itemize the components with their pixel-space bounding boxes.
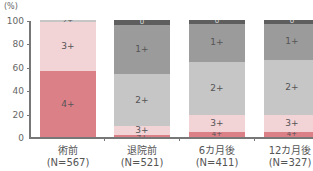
y-axis-unit: (%)	[4, 2, 18, 11]
bar-segment-1+: 1+	[114, 25, 170, 74]
bar-segment-0: 0	[264, 20, 313, 24]
segment-label: 2+	[63, 20, 73, 22]
x-axis-line	[29, 137, 313, 139]
segment-label: 2+	[285, 83, 298, 92]
category-label-discharge: 退院前 (N=521)	[102, 145, 182, 169]
y-axis-line	[29, 21, 31, 139]
segment-label: 3+	[61, 42, 74, 51]
segment-label: 3+	[135, 126, 148, 134]
bar-segment-2+: 2+	[40, 20, 96, 22]
bar-1: 4+3+2+1+0	[114, 20, 170, 137]
bar-segment-0: 0	[189, 20, 245, 24]
category-label-12months: 12カ月後 (N=327)	[250, 145, 313, 169]
segment-label: 4+	[212, 132, 222, 137]
segment-label: 4+	[61, 100, 74, 109]
category-name: 6カ月後	[177, 145, 257, 157]
stacked-bar-chart: (%) 100 80 60 40 20 0 4+3+2+4+3+2+1+04+3…	[0, 0, 313, 171]
category-label-preop: 術前 (N=567)	[28, 145, 108, 169]
y-tick-20: 20	[0, 111, 24, 120]
category-name: 12カ月後	[250, 145, 313, 157]
category-name: 退院前	[102, 145, 182, 157]
x-tickmark	[104, 137, 105, 141]
bar-segment-4+: 4+	[40, 71, 96, 137]
segment-label: 1+	[135, 45, 148, 54]
segment-label: 0	[215, 20, 219, 24]
y-tick-0: 0	[0, 134, 24, 143]
bar-segment-0: 0	[114, 20, 170, 25]
category-name: 術前	[28, 145, 108, 157]
category-label-6months: 6カ月後 (N=411)	[177, 145, 257, 169]
segment-label: 3+	[285, 119, 298, 128]
y-tick-100: 100	[0, 17, 24, 26]
category-n: (N=411)	[177, 157, 257, 169]
segment-label: 0	[290, 20, 294, 24]
segment-label: 4+	[137, 135, 147, 137]
segment-label: 4+	[287, 132, 297, 137]
bar-segment-4+: 4+	[114, 135, 170, 137]
bar-segment-3+: 3+	[264, 115, 313, 133]
x-tickmark	[179, 137, 180, 141]
category-n: (N=521)	[102, 157, 182, 169]
bar-segment-3+: 3+	[40, 22, 96, 71]
y-tick-40: 40	[0, 87, 24, 96]
segment-label: 1+	[210, 38, 223, 47]
segment-label: 3+	[210, 119, 223, 128]
bar-3: 4+3+2+1+0	[264, 20, 313, 137]
bar-segment-3+: 3+	[189, 115, 245, 133]
bar-segment-2+: 2+	[189, 62, 245, 115]
segment-label: 2+	[210, 84, 223, 93]
bar-segment-4+: 4+	[189, 132, 245, 137]
bar-segment-4+: 4+	[264, 132, 313, 137]
bar-segment-2+: 2+	[264, 60, 313, 115]
bar-segment-1+: 1+	[264, 24, 313, 60]
bar-2: 4+3+2+1+0	[189, 20, 245, 137]
x-tickmark	[254, 137, 255, 141]
segment-label: 1+	[285, 37, 298, 46]
y-tick-80: 80	[0, 40, 24, 49]
bar-segment-2+: 2+	[114, 74, 170, 127]
segment-label: 0	[140, 20, 144, 25]
category-n: (N=327)	[250, 157, 313, 169]
segment-label: 2+	[135, 96, 148, 105]
y-tick-60: 60	[0, 64, 24, 73]
bar-0: 4+3+2+	[40, 20, 96, 137]
bar-segment-1+: 1+	[189, 24, 245, 63]
category-n: (N=567)	[28, 157, 108, 169]
bar-segment-3+: 3+	[114, 126, 170, 134]
